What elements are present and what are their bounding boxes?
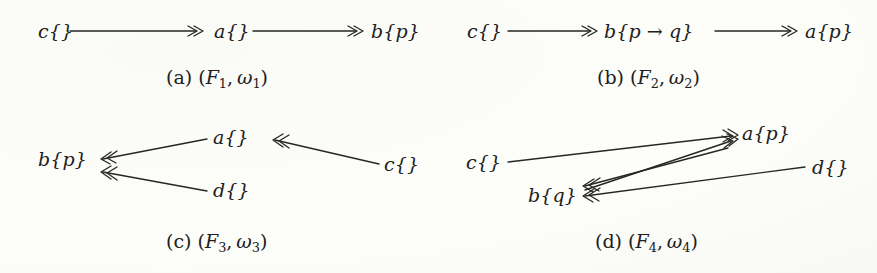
caption-F: F	[637, 66, 650, 88]
caption-omega: ω	[236, 230, 252, 252]
node-label: c{}	[466, 151, 501, 173]
caption-index: 1	[219, 76, 227, 91]
node-label: d{}	[213, 179, 250, 201]
caption-omega-index: 1	[252, 76, 260, 91]
panel-a-caption: (a) (F1, ω1)	[166, 68, 268, 91]
node-label: a{p}	[805, 20, 853, 42]
node-label: c{}	[384, 153, 419, 175]
caption-comma: ,	[657, 230, 667, 252]
caption-comma: ,	[226, 230, 236, 252]
panel-b-node-b: b{p → q}	[604, 22, 693, 41]
caption-close: )	[261, 66, 268, 88]
panel-d-node-c: c{}	[466, 153, 501, 172]
caption-close: )	[260, 230, 267, 252]
edge-a-c-to-a	[70, 26, 203, 36]
node-label: a{}	[214, 20, 250, 42]
edge-b-c-to-b	[508, 26, 597, 36]
figure-canvas: c{} a{} b{p} (a) (F1, ω1) c{} b{p → q} a…	[0, 0, 877, 273]
panel-d-node-a: a{p}	[742, 124, 790, 143]
caption-label: (c)	[166, 230, 191, 252]
node-label: a{}	[213, 126, 249, 148]
edge-d-a-to-b	[583, 148, 728, 192]
caption-label: (a)	[166, 66, 192, 88]
panel-a-node-b: b{p}	[371, 22, 420, 41]
panel-c-node-c: c{}	[384, 155, 419, 174]
panel-c-node-b: b{p}	[38, 150, 87, 169]
panel-c-node-a: a{}	[213, 128, 249, 147]
node-label: b{q}	[528, 184, 577, 206]
panel-c-caption: (c) (F3, ω3)	[166, 232, 267, 255]
caption-comma: ,	[227, 66, 237, 88]
caption-open: (	[198, 66, 205, 88]
node-label: a{p}	[742, 122, 790, 144]
caption-label: (b)	[597, 66, 624, 88]
caption-comma: ,	[659, 66, 669, 88]
caption-omega: ω	[667, 230, 683, 252]
node-label: c{}	[467, 20, 502, 42]
edge-d-d-to-b	[583, 167, 805, 202]
caption-F: F	[206, 66, 219, 88]
caption-close: )	[690, 230, 697, 252]
node-label: d{}	[812, 156, 849, 178]
caption-close: )	[692, 66, 699, 88]
edge-c-a-to-b	[101, 139, 207, 164]
panel-a-node-c: c{}	[38, 22, 73, 41]
panel-b-node-c: c{}	[467, 22, 502, 41]
node-label: c{}	[38, 20, 73, 42]
panel-c-node-d: d{}	[213, 181, 250, 200]
caption-label: (d)	[595, 230, 622, 252]
node-label: b{p}	[371, 20, 420, 42]
caption-omega: ω	[237, 66, 253, 88]
node-label: b{p}	[38, 148, 87, 170]
caption-F: F	[635, 230, 648, 252]
caption-F: F	[205, 230, 218, 252]
panel-a-node-a: a{}	[214, 22, 250, 41]
panel-d-caption: (d) (F4, ω4)	[595, 232, 698, 255]
edge-d-b-to-a	[585, 134, 738, 190]
caption-index: 4	[649, 240, 657, 255]
node-label: b{p → q}	[604, 20, 693, 42]
caption-index: 2	[651, 76, 659, 91]
edge-c-c-to-a	[273, 134, 379, 164]
edge-b-b-to-a	[715, 26, 797, 36]
edge-d-c-to-a	[508, 129, 738, 162]
panel-b-caption: (b) (F2, ω2)	[597, 68, 700, 91]
caption-open: (	[198, 230, 205, 252]
caption-omega: ω	[669, 66, 685, 88]
panel-d-node-d: d{}	[812, 158, 849, 177]
caption-omega-index: 3	[252, 240, 260, 255]
panel-b-node-a: a{p}	[805, 22, 853, 41]
panel-d-node-b: b{q}	[528, 186, 577, 205]
edge-a-a-to-b	[253, 26, 363, 36]
edge-c-d-to-b	[101, 166, 207, 191]
